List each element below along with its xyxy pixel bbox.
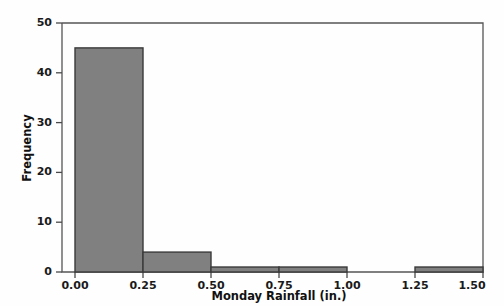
histogram-bar <box>75 48 143 272</box>
histogram-bar <box>211 267 279 272</box>
x-axis-title: Monday Rainfall (in.) <box>211 289 346 303</box>
y-tick-label-30: 30 <box>37 116 53 129</box>
x-tick-label-1-50: 1.50 <box>458 279 485 292</box>
y-axis-ticks <box>56 23 62 272</box>
histogram-figure: 0 10 20 30 40 50 0.00 0.25 0.50 0.75 1.0… <box>0 0 504 306</box>
histogram-bar <box>415 267 483 272</box>
chart-canvas: 0 10 20 30 40 50 0.00 0.25 0.50 0.75 1.0… <box>0 0 504 306</box>
y-tick-label-20: 20 <box>37 165 53 178</box>
x-tick-label-0-25: 0.25 <box>129 279 156 292</box>
y-tick-label-50: 50 <box>37 16 53 29</box>
x-tick-label-0-00: 0.00 <box>61 279 88 292</box>
y-axis-tick-labels: 0 10 20 30 40 50 <box>37 16 53 278</box>
histogram-bar <box>143 252 211 272</box>
y-tick-label-10: 10 <box>37 215 53 228</box>
x-tick-label-1-25: 1.25 <box>401 279 428 292</box>
y-tick-label-40: 40 <box>37 66 53 79</box>
histogram-bars <box>75 48 483 272</box>
x-axis-ticks <box>75 272 483 278</box>
histogram-bar <box>279 267 347 272</box>
y-tick-label-0: 0 <box>44 265 52 278</box>
y-axis-title: Frequency <box>20 114 34 182</box>
